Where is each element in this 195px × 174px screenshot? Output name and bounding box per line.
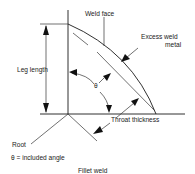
weld-face-label: Weld face bbox=[85, 10, 115, 17]
excess-weld-label-line1: Excess weld bbox=[141, 33, 178, 40]
theta-arc-diag-stub bbox=[99, 78, 104, 83]
theta-legend: θ = included angle bbox=[11, 154, 65, 162]
theta-arrow-diag-icon bbox=[103, 73, 111, 81]
throat-leader-upper-2 bbox=[128, 103, 134, 108]
root-throat-extension bbox=[68, 114, 97, 141]
leg-length-label: Leg length bbox=[17, 66, 48, 74]
leg-length-arrow-up-icon bbox=[43, 25, 49, 35]
excess-weld-arrow-icon bbox=[121, 54, 130, 62]
fillet-weld-diagram: Weld face Excess weld metal Leg length θ… bbox=[0, 0, 195, 174]
root-label: Root bbox=[12, 141, 26, 148]
inner-face-line-lower bbox=[97, 52, 155, 111]
inner-face-line-upper bbox=[73, 33, 88, 45]
theta-label: θ bbox=[94, 82, 98, 89]
excess-weld-leader bbox=[126, 48, 138, 58]
theta-arrow-left-icon bbox=[69, 69, 77, 76]
diagram-title: Fillet weld bbox=[78, 167, 108, 174]
throat-arrow-lower-icon bbox=[93, 126, 103, 134]
leg-length-arrow-down-icon bbox=[43, 103, 49, 113]
excess-weld-label-line2: metal bbox=[165, 41, 182, 48]
throat-thickness-label: Throat thickness bbox=[111, 116, 160, 123]
root-leader bbox=[31, 114, 68, 144]
theta-arrow-down-icon bbox=[106, 105, 112, 113]
throat-leader-lower bbox=[102, 123, 110, 129]
